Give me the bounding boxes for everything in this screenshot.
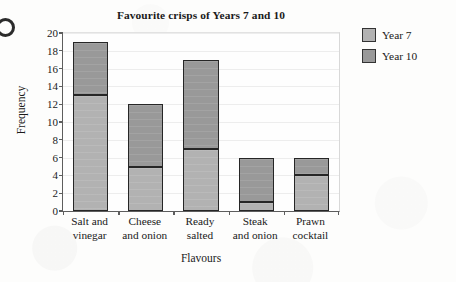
y-axis-tick-label: 4 (53, 170, 59, 181)
bar-segment-year-7[interactable] (73, 95, 108, 211)
y-axis-tick-mark (59, 139, 63, 140)
chart-legend: Year 7 Year 10 (362, 28, 417, 70)
chart-title: Favourite crisps of Years 7 and 10 (62, 9, 340, 21)
bar-segment-year-10[interactable] (128, 104, 163, 166)
bar-segment-year-10[interactable] (294, 158, 329, 176)
y-axis-tick-label: 20 (47, 28, 58, 39)
legend-label-year-10: Year 10 (382, 50, 417, 62)
bar-segment-year-10[interactable] (183, 60, 218, 149)
plot-area: 02468101214161820 (62, 32, 340, 212)
y-axis-tick-label: 8 (53, 134, 59, 145)
y-axis-tick-label: 16 (47, 63, 58, 74)
bar-segment-year-7[interactable] (183, 149, 218, 211)
y-axis-tick-label: 10 (47, 117, 58, 128)
bar-5[interactable] (294, 158, 329, 211)
y-axis-tick-label: 2 (53, 188, 59, 199)
bar-chart: Favourite crisps of Years 7 and 10 Frequ… (0, 0, 456, 282)
bar-segment-year-10[interactable] (73, 42, 108, 95)
legend-swatch-year-7 (362, 28, 376, 42)
y-axis-tick-mark (59, 68, 63, 69)
y-axis-tick-mark (59, 121, 63, 122)
y-axis-tick-label: 18 (47, 45, 58, 56)
bar-2[interactable] (128, 104, 163, 211)
y-axis-tick-label: 12 (47, 99, 58, 110)
legend-item-year-10[interactable]: Year 10 (362, 49, 417, 63)
legend-label-year-7: Year 7 (382, 29, 412, 41)
y-axis-title: Frequency (15, 65, 27, 155)
x-axis-title: Flavours (62, 252, 340, 264)
bar-1[interactable] (73, 42, 108, 211)
bar-segment-year-7[interactable] (239, 202, 274, 211)
legend-item-year-7[interactable]: Year 7 (362, 28, 417, 42)
y-axis-tick-mark (59, 86, 63, 87)
bar-segment-year-7[interactable] (294, 175, 329, 211)
y-axis-tick-mark (59, 175, 63, 176)
y-axis-tick-label: 6 (53, 152, 59, 163)
y-axis-tick-mark (59, 50, 63, 51)
bar-4[interactable] (239, 158, 274, 211)
legend-swatch-year-10 (362, 49, 376, 63)
y-axis-tick-mark (59, 104, 63, 105)
y-axis-tick-mark (59, 193, 63, 194)
bar-segment-year-7[interactable] (128, 167, 163, 212)
y-axis-tick-mark (59, 157, 63, 158)
y-gridline (63, 33, 339, 34)
x-axis-category-label: Prawn cocktail (277, 215, 344, 242)
y-axis-tick-mark (59, 32, 63, 33)
y-axis-tick-label: 14 (47, 81, 58, 92)
bar-segment-year-10[interactable] (239, 158, 274, 203)
bar-3[interactable] (183, 60, 218, 211)
